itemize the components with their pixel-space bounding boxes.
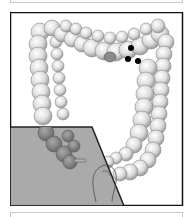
marker-dot	[125, 56, 131, 62]
marker-dot	[135, 58, 141, 64]
bottom-divider	[10, 212, 183, 217]
colon-illustration	[10, 12, 184, 206]
top-divider	[10, 0, 183, 3]
lesion	[104, 52, 116, 62]
marker-dot	[128, 45, 134, 51]
